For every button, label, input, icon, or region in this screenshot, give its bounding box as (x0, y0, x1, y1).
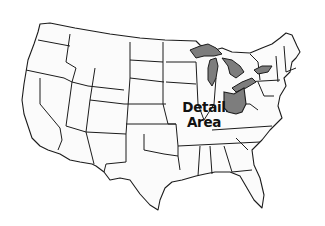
us-map (0, 0, 325, 226)
detail-area-label-line2: Area (176, 115, 232, 130)
us-outline (22, 23, 300, 210)
detail-area-label-line1: Detail (176, 100, 232, 115)
